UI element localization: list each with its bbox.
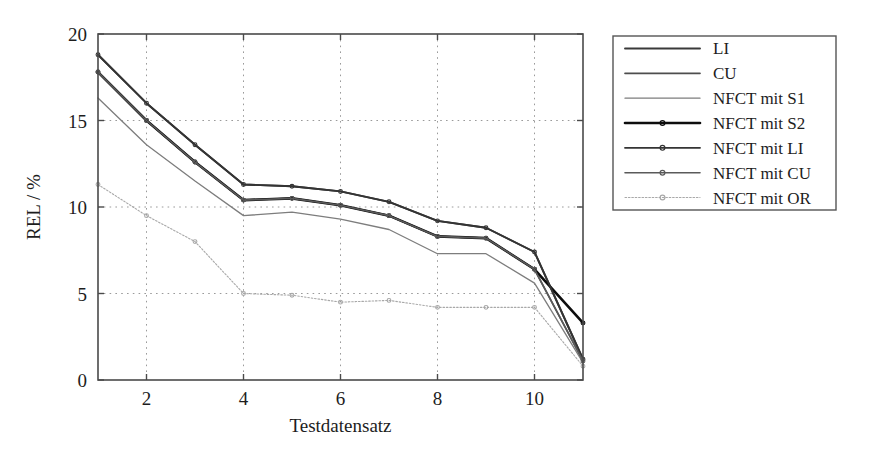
- legend-label: CU: [713, 64, 737, 83]
- x-tick-label: 4: [239, 388, 249, 409]
- y-tick-label: 0: [78, 370, 88, 391]
- legend-label: NFCT mit S1: [713, 89, 805, 108]
- series-line-nfct-mit-or: [98, 185, 583, 367]
- y-tick-label: 20: [68, 24, 87, 45]
- axes-layer: 05101520246810TestdatensatzREL / %: [23, 24, 583, 436]
- legend-label: LI: [713, 39, 729, 58]
- legend-label: NFCT mit CU: [713, 164, 811, 183]
- series-line-nfct-mit-s1: [98, 98, 583, 363]
- legend-label: NFCT mit OR: [713, 189, 812, 208]
- x-axis-title: Testdatensatz: [289, 415, 391, 436]
- y-tick-label: 5: [78, 284, 88, 305]
- y-axis-title: REL / %: [23, 174, 44, 240]
- x-tick-label: 6: [336, 388, 346, 409]
- legend-layer: LICUNFCT mit S1NFCT mit S2NFCT mit LINFC…: [613, 36, 836, 210]
- x-tick-label: 10: [525, 388, 544, 409]
- series-layer: [96, 53, 585, 368]
- y-tick-label: 15: [68, 111, 87, 132]
- chart-figure: 05101520246810TestdatensatzREL / % LICUN…: [0, 0, 871, 452]
- legend-label: NFCT mit S2: [713, 114, 805, 133]
- x-tick-label: 8: [433, 388, 443, 409]
- x-tick-label: 2: [142, 388, 152, 409]
- y-tick-label: 10: [68, 197, 87, 218]
- legend-label: NFCT mit LI: [713, 139, 804, 158]
- line-chart: 05101520246810TestdatensatzREL / % LICUN…: [0, 0, 871, 452]
